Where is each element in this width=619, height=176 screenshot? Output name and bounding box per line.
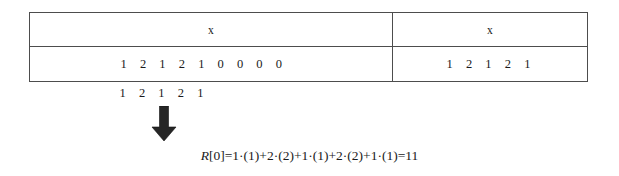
result-expression: 1·(1)+2·(2)+1·(1)+2·(2)+1·(1) xyxy=(232,148,397,163)
digit: 0 xyxy=(269,57,288,72)
digit: 2 xyxy=(171,86,190,101)
digit: 2 xyxy=(133,57,152,72)
array-table: x 1 2 1 2 1 0 0 0 0 x 1 2 1 2 1 xyxy=(29,12,588,82)
digit: 1 xyxy=(518,57,537,72)
kernel-digits-row: 1 2 1 2 1 xyxy=(113,86,210,101)
digit: 2 xyxy=(498,57,517,72)
padded-array-header: x xyxy=(30,13,392,47)
digit: 2 xyxy=(172,57,191,72)
digit: 1 xyxy=(191,86,210,101)
original-array-digits: 1 2 1 2 1 xyxy=(440,57,537,72)
digit: 1 xyxy=(152,86,171,101)
padded-array-column: x 1 2 1 2 1 0 0 0 0 xyxy=(30,13,393,81)
arrow-down-icon xyxy=(149,106,179,142)
digit: 0 xyxy=(250,57,269,72)
result-variable: R xyxy=(201,148,209,163)
digit: 1 xyxy=(114,57,133,72)
digit: 2 xyxy=(459,57,478,72)
padded-array-digits: 1 2 1 2 1 0 0 0 0 xyxy=(114,57,289,72)
result-equation: R[0]=1·(1)+2·(2)+1·(1)+2·(2)+1·(1)=11 xyxy=(0,148,619,164)
digit: 2 xyxy=(132,86,151,101)
digit: 0 xyxy=(211,57,230,72)
digit: 1 xyxy=(153,57,172,72)
original-array-column: x 1 2 1 2 1 xyxy=(393,13,587,81)
digit: 1 xyxy=(440,57,459,72)
digit: 0 xyxy=(230,57,249,72)
original-array-cell: 1 2 1 2 1 xyxy=(393,47,587,81)
result-index: [0] xyxy=(209,148,225,163)
result-value: 11 xyxy=(405,148,418,163)
digit: 1 xyxy=(192,57,211,72)
padded-array-cell: 1 2 1 2 1 0 0 0 0 xyxy=(30,47,392,81)
digit: 1 xyxy=(113,86,132,101)
digit: 1 xyxy=(479,57,498,72)
original-array-header: x xyxy=(393,13,587,47)
